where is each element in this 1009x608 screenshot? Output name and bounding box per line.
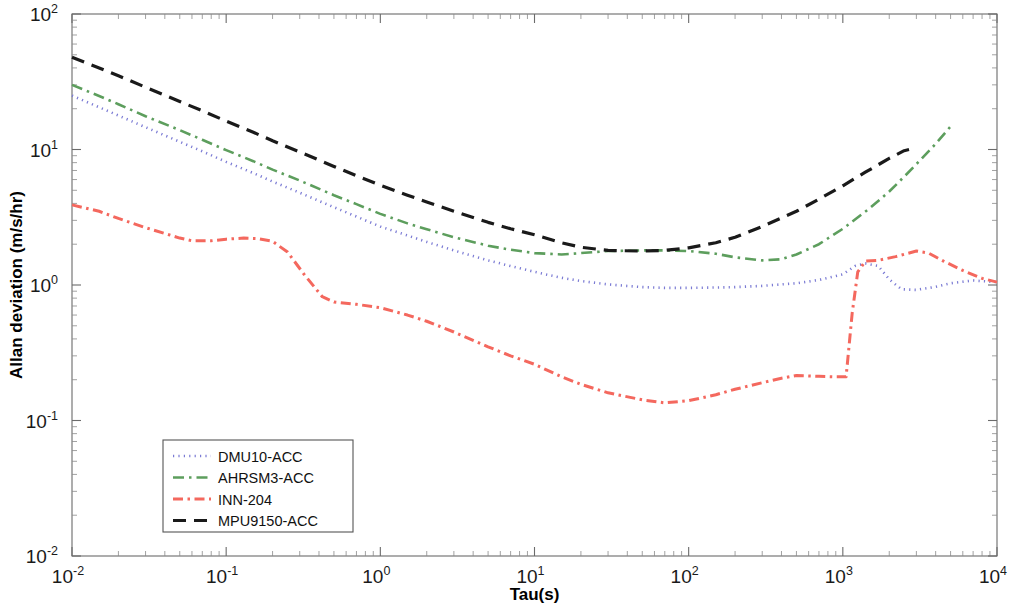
y-axis-title: Allan deviation (m/s/hr) xyxy=(7,191,26,379)
series-line-dmu10-acc xyxy=(72,96,997,290)
y-tick-label: 10-2 xyxy=(26,544,58,567)
x-tick-labels: 10-210-1100101102103104 xyxy=(52,564,1007,587)
chart-svg: 10-210-110010110210310410210110010-110-2… xyxy=(0,0,1009,608)
y-tick-label: 101 xyxy=(30,138,58,161)
legend-label-mpu9150-acc: MPU9150-ACC xyxy=(218,513,318,529)
x-tick-label: 102 xyxy=(671,564,699,587)
data-series-group xyxy=(72,57,997,403)
x-axis-title: Tau(s) xyxy=(510,585,560,604)
series-line-mpu9150-acc xyxy=(72,57,912,251)
x-tick-label: 100 xyxy=(362,564,390,587)
legend-label-inn-204: INN-204 xyxy=(218,492,272,508)
series-line-ahrsm3-acc xyxy=(72,85,951,261)
x-tick-label: 10-1 xyxy=(206,564,238,587)
x-tick-label: 101 xyxy=(516,564,544,587)
legend-label-dmu10-acc: DMU10-ACC xyxy=(218,449,303,465)
x-tick-label: 10-2 xyxy=(52,564,84,587)
y-tick-label: 100 xyxy=(30,273,58,296)
legend: DMU10-ACCAHRSM3-ACCINN-204MPU9150-ACC xyxy=(163,440,353,532)
legend-label-ahrsm3-acc: AHRSM3-ACC xyxy=(218,470,314,486)
y-tick-label: 102 xyxy=(30,2,58,25)
x-tick-label: 104 xyxy=(979,564,1007,587)
y-tick-label: 10-1 xyxy=(26,409,58,432)
x-tick-label: 103 xyxy=(825,564,853,587)
allan-deviation-chart: 10-210-110010110210310410210110010-110-2… xyxy=(0,0,1009,608)
y-tick-labels: 10210110010-110-2 xyxy=(26,2,58,567)
